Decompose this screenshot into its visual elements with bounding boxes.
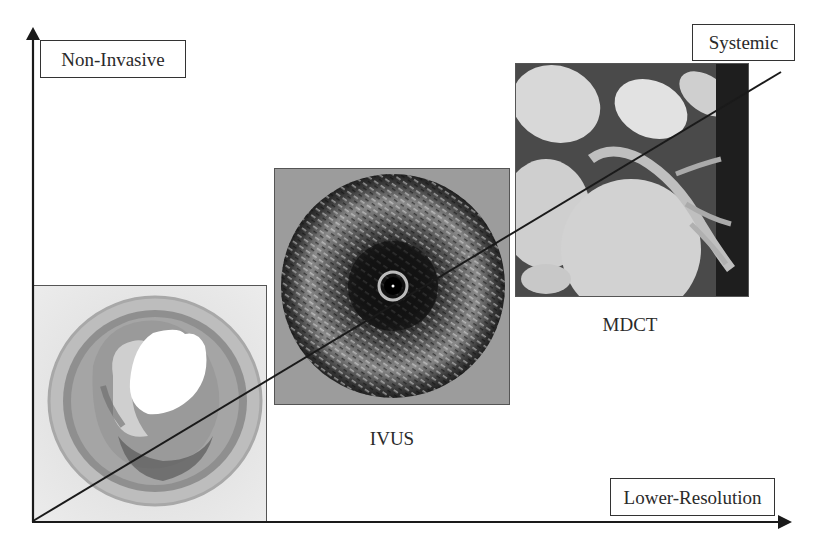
- axes-layer: [0, 0, 825, 550]
- diagonal-label-systemic: Systemic: [692, 24, 795, 61]
- x-axis-label-lower-resolution: Lower-Resolution: [610, 478, 775, 516]
- y-axis-label-non-invasive: Non-Invasive: [40, 40, 186, 78]
- y-axis-arrow-icon: [26, 27, 40, 40]
- diagonal-trend-line: [33, 72, 781, 521]
- x-axis-arrow-icon: [778, 515, 792, 529]
